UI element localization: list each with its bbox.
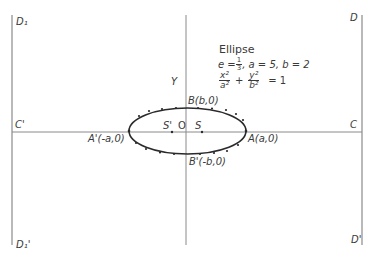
plus-sign: + xyxy=(235,75,243,86)
directrix-d-label: D xyxy=(350,13,358,23)
eccentricity-label: e = xyxy=(218,59,236,70)
parameters-rest: , a = 5, b = 2 xyxy=(242,59,309,70)
vertex-a-label: A(a,0) xyxy=(248,134,278,144)
x-term: x² a² xyxy=(219,71,230,91)
focus-s-label: S xyxy=(195,121,201,131)
ellipse-curve xyxy=(129,108,246,154)
origin-label: O xyxy=(178,121,186,131)
focus-s-prime-dot xyxy=(171,131,173,133)
ellipse-diagram xyxy=(0,0,376,259)
vertex-a-prime-label: A'(-a,0) xyxy=(88,134,125,144)
directrix-d1-label: D₁ xyxy=(16,17,28,27)
y-term: y² b² xyxy=(248,71,259,91)
directrix-d1-prime-label: D₁' xyxy=(16,240,30,250)
vertex-b-prime-label: B'(-b,0) xyxy=(189,157,226,167)
directrix-d-prime-label: D' xyxy=(351,235,361,245)
y-axis-label: Y xyxy=(171,77,177,87)
diagram-title: Ellipse xyxy=(219,44,255,55)
ellipse-equation: x² a² + y² b² = 1 xyxy=(219,71,286,91)
focus-s-prime-label: S' xyxy=(163,121,172,131)
point-c-prime-label: C' xyxy=(15,120,25,130)
focus-s-dot xyxy=(201,131,203,133)
equation-rhs: = 1 xyxy=(268,75,286,86)
vertex-b-label: B(b,0) xyxy=(188,96,219,106)
point-c-label: C xyxy=(350,120,357,130)
